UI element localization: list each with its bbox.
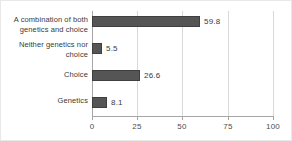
category-label-line: genetics and choice [4,25,88,35]
category-label-line: A combination of both [4,15,88,25]
tick-75 [228,116,229,120]
category-label-line: Choice [4,70,88,80]
tick-label-75: 75 [223,122,232,131]
category-label-line: Neither genetics nor [4,40,88,50]
bar-combination [92,16,200,27]
bar-neither [92,43,102,54]
category-label-combination: A combination of both genetics and choic… [4,15,92,34]
category-label-genetics: Genetics [4,96,92,106]
value-label-choice: 26.6 [144,71,160,80]
category-label-neither: Neither genetics nor choice [4,40,92,59]
value-label-genetics: 8.1 [111,98,123,107]
tick-0 [92,116,93,120]
tick-label-100: 100 [266,122,280,131]
bar-chart: A combination of both genetics and choic… [0,0,292,141]
bar-choice [92,70,140,81]
category-label-line: choice [4,50,88,60]
category-label-choice: Choice [4,70,92,80]
value-label-combination: 59.8 [204,17,220,26]
category-label-line: Genetics [4,96,88,106]
tick-label-25: 25 [132,122,141,131]
tick-label-50: 50 [177,122,186,131]
category-axis-labels: A combination of both genetics and choic… [1,1,92,141]
value-label-neither: 5.5 [106,44,118,53]
tick-25 [137,116,138,120]
bar-genetics [92,97,107,108]
tick-100 [273,116,274,120]
gridline-100 [273,11,274,116]
tick-label-0: 0 [90,122,95,131]
x-axis-line [92,116,274,117]
tick-50 [182,116,183,120]
